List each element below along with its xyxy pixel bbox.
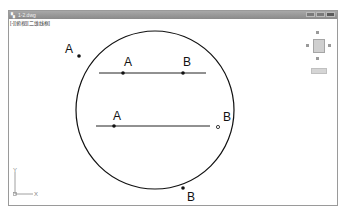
point-a-bottom[interactable]: [112, 124, 116, 128]
svg-text:X: X: [34, 191, 38, 197]
label-a-circle: A: [65, 42, 73, 56]
circle[interactable]: [76, 31, 234, 189]
svg-text:Y: Y: [13, 167, 17, 173]
point-a-circle[interactable]: [77, 54, 81, 58]
drawing-canvas[interactable]: A A B A B B Y X: [0, 0, 344, 213]
label-b-right: B: [223, 110, 231, 124]
label-a-top: A: [124, 55, 132, 69]
ucs-icon: Y X: [13, 167, 38, 197]
label-a-bottom: A: [113, 109, 121, 123]
label-b-circle: B: [187, 190, 195, 204]
point-a-top[interactable]: [121, 71, 125, 75]
point-b-hollow[interactable]: [216, 125, 219, 128]
point-b-top[interactable]: [181, 71, 185, 75]
point-b-circle[interactable]: [181, 186, 185, 190]
label-b-top: B: [183, 55, 191, 69]
